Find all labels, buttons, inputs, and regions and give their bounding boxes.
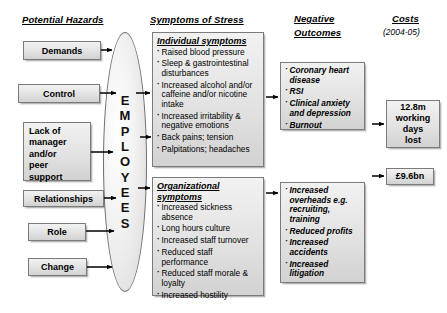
list-item: Burnout xyxy=(285,121,360,131)
cost-box-total-pounds[interactable]: £9.6bn xyxy=(386,168,434,185)
hazard-box-role[interactable]: Role xyxy=(28,223,86,241)
panel-individual-symptoms[interactable]: Individual symptoms Raised blood pressur… xyxy=(152,32,264,167)
panel-organizational-outcomes[interactable]: Increased overheads e.g. recruiting, tra… xyxy=(280,182,365,283)
hazard-label-control: Control xyxy=(43,89,75,99)
list-item: Coronary heart disease xyxy=(285,66,360,85)
employees-letter-8: E xyxy=(121,200,130,215)
employees-letter-3: P xyxy=(121,124,130,139)
column-heading-negative-outcomes-line1: Negative xyxy=(294,13,334,24)
list-item: Reduced staff performance xyxy=(157,248,259,267)
employees-letter-4: L xyxy=(121,139,129,154)
list-item: Increased sickness absence xyxy=(157,203,259,222)
list-organizational-outcomes: Increased overheads e.g. recruiting, tra… xyxy=(285,186,360,279)
panel-title-organizational-symptoms: Organizational symptoms xyxy=(157,181,259,202)
list-item: Increased irritability & negative emotio… xyxy=(157,112,259,131)
column-heading-symptoms-of-stress: Symptoms of Stress xyxy=(150,14,244,25)
list-item: Long hours culture xyxy=(157,224,259,234)
hazard-box-relationships[interactable]: Relationships xyxy=(23,190,104,207)
list-item: RSI xyxy=(285,87,360,97)
list-item: Increased overheads e.g. recruiting, tra… xyxy=(285,186,360,224)
list-item: Increased staff turnover xyxy=(157,236,259,246)
cost-label-working: working xyxy=(396,113,431,124)
list-item: Increased alcohol and/or caffeine and/or… xyxy=(157,81,259,110)
hazard-label-role: Role xyxy=(47,227,67,237)
hazard-box-control[interactable]: Control xyxy=(18,84,100,103)
list-item: Back pains; tension xyxy=(157,133,259,143)
list-individual-outcomes: Coronary heart disease RSI Clinical anxi… xyxy=(285,66,360,130)
list-item: Reduced staff morale & loyalty xyxy=(157,269,259,288)
employees-letter-7: E xyxy=(121,185,130,200)
cost-value-total-pounds: £9.6bn xyxy=(396,171,425,182)
hazard-box-demands[interactable]: Demands xyxy=(23,41,101,60)
list-item: Increased accidents xyxy=(285,238,360,257)
list-organizational-symptoms: Increased sickness absence Long hours cu… xyxy=(157,203,259,300)
list-item: Raised blood pressure xyxy=(157,48,259,58)
hazard-box-change[interactable]: Change xyxy=(28,258,87,276)
employees-letter-5: O xyxy=(120,154,130,169)
cost-label-days: days xyxy=(403,124,424,135)
employees-letter-9: S xyxy=(121,216,130,231)
panel-organizational-symptoms[interactable]: Organizational symptoms Increased sickne… xyxy=(152,177,264,296)
list-item: Increased hostility xyxy=(157,291,259,301)
cost-box-working-days-lost[interactable]: 12.8m working days lost xyxy=(386,100,440,148)
diagram-canvas: Potential Hazards Symptoms of Stress Neg… xyxy=(0,0,447,313)
list-individual-symptoms: Raised blood pressure Sleep & gastrointe… xyxy=(157,48,259,155)
cost-label-lost: lost xyxy=(405,135,421,146)
hazard-label-relationships: Relationships xyxy=(34,194,93,204)
costs-year-range: (2004-05) xyxy=(383,27,420,37)
panel-title-individual-symptoms: Individual symptoms xyxy=(157,36,259,47)
hazard-label-lack-of-support: Lack of manager and/or peer support xyxy=(29,126,67,183)
employees-letter-2: M xyxy=(120,108,131,123)
list-item: Reduced profits xyxy=(285,227,360,237)
employees-oval: E M P L O Y E E S xyxy=(103,32,147,292)
list-item: Sleep & gastrointestinal disturbances xyxy=(157,59,259,78)
employees-letter-1: E xyxy=(121,93,130,108)
hazard-label-change: Change xyxy=(41,262,74,272)
employees-letter-6: Y xyxy=(121,170,130,185)
list-item: Increased litigation xyxy=(285,260,360,279)
column-heading-negative-outcomes-line2: Outcomes xyxy=(294,27,341,38)
hazard-box-lack-of-support[interactable]: Lack of manager and/or peer support xyxy=(23,122,91,181)
cost-value-working-days: 12.8m xyxy=(400,102,426,113)
list-item: Clinical anxiety and depression xyxy=(285,99,360,118)
list-item: Palpitations; headaches xyxy=(157,145,259,155)
hazard-label-demands: Demands xyxy=(42,46,83,56)
column-heading-potential-hazards: Potential Hazards xyxy=(22,14,103,25)
panel-individual-outcomes[interactable]: Coronary heart disease RSI Clinical anxi… xyxy=(280,62,365,130)
column-heading-costs: Costs xyxy=(392,13,419,24)
